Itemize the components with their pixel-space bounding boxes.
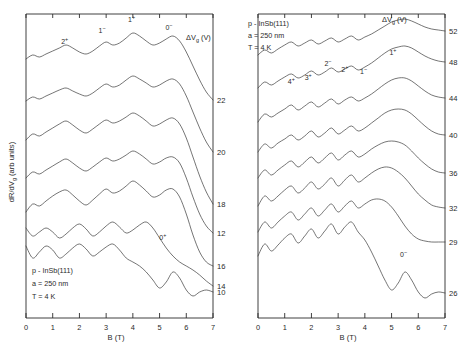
right-xtick-labels: 01234567 [256,323,447,332]
xtick-label-6: 6 [416,323,420,332]
peak-label-0minus: 0− [165,22,172,31]
left-panel-svg: 01234567 22201812161410 2+1−1+0−0+ B (T)… [0,0,232,348]
peak-label-1minus: 1− [99,25,106,34]
peak-label-2minus: 2− [324,58,331,67]
peak-label-1plus: 1+ [128,14,135,23]
xtick-label-0: 0 [256,323,260,332]
curve-trace-26 [258,222,445,298]
trace-value-label-12: 12 [217,229,225,238]
xtick-label-3: 3 [336,323,340,332]
peak-label-2plus: 2+ [341,64,348,73]
peak-sign: + [163,232,166,238]
right-info-block: p - InSb(111) a = 250 nm T = 4 K [248,19,289,52]
left-trace-value-labels: 22201812161410 [217,96,225,297]
curve-trace-16 [26,181,213,266]
peak-sign: + [345,64,348,70]
info-line-material: p - InSb(111) [248,19,289,28]
xtick-label-3: 3 [104,323,108,332]
info-line-thickness: a = 250 nm [248,31,284,40]
left-peak-annotations: 2+1−1+0−0+ [61,14,172,241]
right-panel-svg: 01234567 5248444036322926 4+3+2−2+1−1+0−… [232,0,464,348]
left-info-block: p - InSb(111) a = 250 nm T = 4 K [32,266,73,301]
left-xtick-labels: 01234567 [24,323,215,332]
trace-value-label-32: 32 [449,204,457,213]
xtick-label-6: 6 [184,323,188,332]
right-plot-frame [258,14,445,318]
right-curve-group [258,19,445,298]
yaxis-label-pre: dR/dV [7,180,16,202]
trace-value-label-48: 48 [449,58,457,67]
peak-label-4plus: 4+ [288,76,295,85]
chart-panel-right: 01234567 5248444036322926 4+3+2−2+1−1+0−… [232,0,464,348]
trace-value-label-44: 44 [449,94,457,103]
trace-value-label-40: 40 [449,131,457,140]
right-xaxis-label: B (T) [340,333,357,342]
curve-trace-44 [258,78,445,122]
peak-sign: + [65,36,68,42]
trace-value-label-20: 20 [217,148,225,157]
peak-label-0minus: 0− [400,249,407,258]
xtick-label-4: 4 [363,323,367,332]
xtick-label-0: 0 [24,323,28,332]
curve-trace-20 [26,76,213,152]
xtick-label-5: 5 [390,323,394,332]
peak-label-3plus: 3+ [305,72,312,81]
curve-trace-14 [26,222,213,286]
left-xaxis-label: B (T) [108,333,125,342]
info-line-thickness: a = 250 nm [32,279,68,288]
header-delta-v: ΔV [382,15,392,24]
yaxis-label-post: (arb units) [7,141,16,178]
right-trace-value-labels: 5248444036322926 [449,27,457,298]
peak-sign: − [364,66,367,72]
peak-label-1minus: 1− [360,66,367,75]
chart-panel-left: 01234567 22201812161410 2+1−1+0−0+ B (T)… [0,0,232,348]
curve-trace-18 [26,113,213,204]
xtick-label-4: 4 [131,323,135,332]
trace-value-label-16: 16 [217,262,225,271]
curve-trace-29 [258,199,445,242]
trace-value-label-36: 36 [449,169,457,178]
trace-value-label-22: 22 [217,96,225,105]
plot-border [258,14,445,318]
xtick-label-5: 5 [158,323,162,332]
peak-label-0plus: 0+ [159,232,166,241]
xtick-label-2: 2 [309,323,313,332]
curve-trace-12 [26,151,213,233]
figure-root: 01234567 22201812161410 2+1−1+0−0+ B (T)… [0,0,464,348]
peak-sign: + [309,72,312,78]
peak-sign: − [103,25,106,31]
trace-value-label-52: 52 [449,27,457,36]
header-unit: (V) [395,15,407,24]
left-yaxis-label: dR/dVg (arb units) [7,141,17,202]
curve-trace-48 [258,46,445,88]
header-unit: (V) [199,33,211,42]
peak-sign: − [169,22,172,28]
trace-value-label-18: 18 [217,200,225,209]
xtick-label-1: 1 [283,323,287,332]
peak-sign: − [328,58,331,64]
xtick-label-7: 7 [211,323,215,332]
peak-sign: + [292,76,295,82]
peak-label-1plus: 1+ [389,47,396,56]
curve-trace-40 [258,109,445,152]
info-line-temperature: T = 4 K [248,43,271,52]
xtick-label-7: 7 [443,323,447,332]
peak-sign: + [393,47,396,53]
peak-sign: + [132,14,135,20]
header-delta-v: ΔV [186,33,196,42]
left-curve-group [26,33,213,296]
info-line-material: p - InSb(111) [32,266,73,275]
xtick-label-2: 2 [77,323,81,332]
left-trace-header: ΔVg (V) [186,33,211,43]
curve-trace-36 [258,141,445,178]
trace-value-label-10: 10 [217,288,225,297]
right-trace-header: ΔVg (V) [382,15,407,25]
trace-value-label-26: 26 [449,289,457,298]
info-line-temperature: T = 4 K [32,292,55,301]
trace-value-label-29: 29 [449,238,457,247]
curve-trace-32 [258,167,445,208]
peak-sign: − [404,249,407,255]
peak-label-2plus: 2+ [61,36,68,45]
right-axis-ticks [258,14,445,318]
curve-trace-22 [26,33,213,100]
